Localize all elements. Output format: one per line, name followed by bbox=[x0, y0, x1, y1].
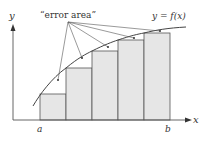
x-axis-arrow-icon bbox=[185, 118, 192, 123]
bar-5 bbox=[144, 33, 170, 120]
bar-1 bbox=[40, 94, 66, 120]
y-axis-label: y bbox=[8, 10, 15, 21]
error-area-label: “error area” bbox=[40, 10, 96, 20]
x-axis-label: x bbox=[193, 114, 199, 125]
riemann-sum-diagram: y x a b “error area” y = f(x) bbox=[0, 0, 208, 141]
y-axis-arrow-icon bbox=[11, 24, 16, 31]
b-label: b bbox=[165, 124, 171, 134]
rectangles bbox=[40, 33, 170, 120]
bar-3 bbox=[92, 51, 118, 120]
function-label: y = f(x) bbox=[151, 11, 186, 21]
bar-2 bbox=[66, 68, 92, 120]
bar-4 bbox=[118, 40, 144, 120]
a-label: a bbox=[37, 124, 42, 134]
